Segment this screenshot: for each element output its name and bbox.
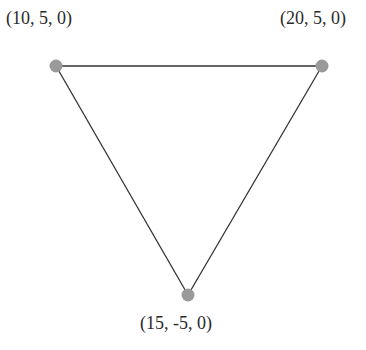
triangle-diagram: (10, 5, 0) (20, 5, 0) (15, -5, 0) — [0, 0, 366, 350]
edge-c-a — [56, 66, 188, 295]
vertex-c-label: (15, -5, 0) — [140, 313, 212, 334]
vertex-a-label: (10, 5, 0) — [6, 8, 72, 29]
vertex-b-label: (20, 5, 0) — [280, 8, 346, 29]
vertex-c — [182, 289, 195, 302]
vertex-b — [316, 60, 329, 73]
vertex-a — [50, 60, 63, 73]
edge-b-c — [188, 66, 322, 295]
